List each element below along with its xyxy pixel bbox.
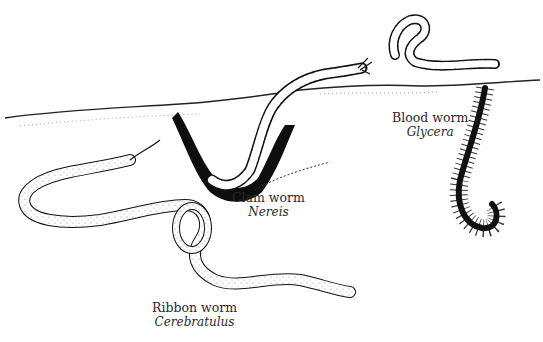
worm-illustration: Clam worm Nereis Blood worm Glycera Ribb… xyxy=(0,0,543,342)
blood-worm-common-name: Blood worm xyxy=(392,110,468,125)
ribbon-worm-common-name: Ribbon worm xyxy=(152,300,237,315)
clam-worm xyxy=(212,58,372,185)
blood-worm-label: Blood worm Glycera xyxy=(392,110,468,140)
ribbon-worm-genus: Cerebratulus xyxy=(152,315,237,330)
ribbon-worm-label: Ribbon worm Cerebratulus xyxy=(152,300,237,330)
illustration-drawing xyxy=(0,0,543,342)
clam-worm-label: Clam worm Nereis xyxy=(232,190,305,220)
clam-worm-genus: Nereis xyxy=(232,205,305,220)
clam-worm-common-name: Clam worm xyxy=(232,190,305,205)
blood-worm-genus: Glycera xyxy=(392,125,468,140)
